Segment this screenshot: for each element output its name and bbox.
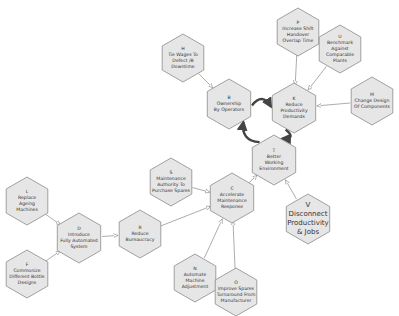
hexagon-shape [150,158,192,206]
hexagon-shape [210,173,253,223]
node-r[interactable] [119,210,161,258]
edge-c-to-t [249,175,257,182]
node-s[interactable] [150,158,192,206]
node-b[interactable] [207,79,250,129]
diagram-canvas [0,0,399,316]
hexagon-shape [6,177,48,225]
node-d[interactable] [57,213,100,263]
edge-v-to-t [286,180,297,199]
edge-s-to-c [192,188,209,193]
hexagon-shape [6,250,48,298]
edge-h-to-b [199,74,213,88]
edge-t-to-b [243,122,260,142]
node-f[interactable] [6,250,48,298]
edge-d-to-r [102,235,118,236]
edge-p-to-k [295,54,297,85]
hexagon-shape [207,79,250,129]
edge-u-to-k [308,66,326,90]
edge-b-to-k [252,99,271,107]
edge-f-to-d [45,251,60,261]
edge-r-to-c [161,206,211,226]
edge-n-to-c [204,219,222,258]
hexagon-shape [174,254,216,302]
nodes-layer [6,8,393,316]
node-c[interactable] [210,173,253,223]
node-n[interactable] [174,254,216,302]
hexagon-shape [57,213,100,263]
node-o[interactable] [215,268,257,316]
hexagon-shape [351,77,393,125]
hexagon-shape [215,268,257,316]
hexagon-shape [119,210,161,258]
hexagon-shape [272,83,315,133]
node-k[interactable] [272,83,315,133]
hexagon-shape [319,25,361,73]
edge-m-to-k [317,103,350,106]
edge-l-to-d [45,214,60,225]
node-l[interactable] [6,177,48,225]
hexagon-shape [162,34,204,82]
node-v[interactable] [286,194,329,244]
edge-o-to-c [233,221,235,270]
hexagon-shape [277,8,319,56]
hexagon-shape [286,194,329,244]
edge-k-to-t [282,130,290,139]
node-h[interactable] [162,34,204,82]
node-p[interactable] [277,8,319,56]
node-u[interactable] [319,25,361,73]
node-m[interactable] [351,77,393,125]
